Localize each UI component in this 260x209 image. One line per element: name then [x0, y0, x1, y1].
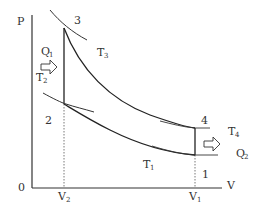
- point-1-label: 1: [202, 168, 209, 181]
- svg-text:2: 2: [43, 77, 47, 85]
- heat-in-arrow-icon: [41, 60, 57, 74]
- label-t3: T 3: [97, 46, 108, 60]
- svg-text:1: 1: [150, 164, 154, 172]
- pv-diagram: P V 0 V 2 V 1 3 2 4 1 T 3 T 2 T 4 T 1 Q …: [0, 0, 260, 209]
- label-t4: T 4: [228, 125, 240, 139]
- process-1-2: [64, 104, 195, 155]
- point-3-label: 3: [74, 14, 81, 27]
- tick-v2: V 2: [57, 190, 70, 204]
- label-t2: T 2: [36, 71, 47, 85]
- label-t1: T 1: [143, 158, 154, 172]
- process-3-4: [64, 28, 195, 128]
- svg-text:1: 1: [197, 196, 201, 204]
- svg-text:2: 2: [66, 196, 70, 204]
- svg-text:3: 3: [104, 52, 108, 60]
- isotherm-t3: [50, 10, 87, 40]
- origin-label: 0: [18, 181, 25, 194]
- point-2-label: 2: [45, 114, 52, 127]
- svg-text:2: 2: [244, 153, 248, 161]
- x-axis-label: V: [226, 179, 236, 192]
- label-q1: Q 1: [41, 45, 53, 59]
- heat-out-arrow-icon: [204, 137, 220, 151]
- label-q2: Q 2: [236, 147, 248, 161]
- svg-text:1: 1: [49, 51, 53, 59]
- svg-text:4: 4: [235, 131, 240, 139]
- isotherm-t2: [43, 93, 94, 112]
- point-4-label: 4: [201, 114, 208, 127]
- y-axis-label: P: [17, 15, 25, 28]
- tick-v1: V 1: [188, 190, 201, 204]
